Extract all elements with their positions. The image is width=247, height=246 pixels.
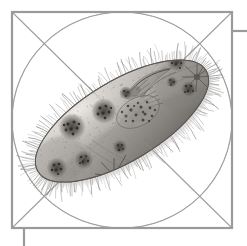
illustration-stage: Ciliate protozoan (Paramecium) scientifi…: [0, 0, 247, 246]
protozoan-illustration: [0, 0, 247, 246]
food-vacuole-8: [112, 139, 128, 155]
food-vacuole-3: [119, 86, 133, 100]
